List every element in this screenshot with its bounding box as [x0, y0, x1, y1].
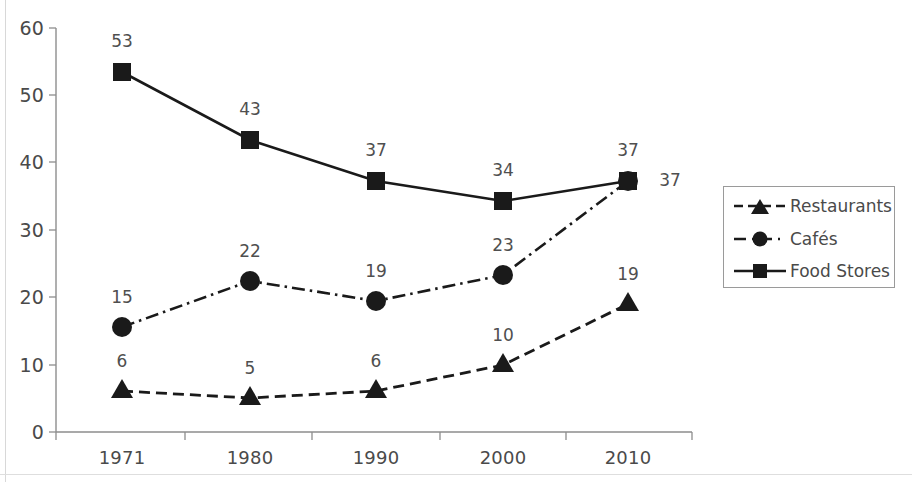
x-tick-label-1971: 1971 — [67, 447, 177, 468]
x-tick-label-2000: 2000 — [448, 447, 558, 468]
data-label-food-stores-1990: 37 — [351, 140, 401, 160]
data-label-restaurants-1971: 6 — [97, 351, 147, 371]
x-tick-label-1990: 1990 — [321, 447, 431, 468]
data-label-cafes-1990: 19 — [351, 261, 401, 281]
data-label-restaurants-1990: 6 — [351, 351, 401, 371]
y-tick-label-60: 60 — [0, 17, 44, 39]
legend-swatch-cafes — [732, 229, 788, 249]
data-label-food-stores-1971: 53 — [97, 31, 147, 51]
data-label-food-stores-2000: 34 — [478, 160, 528, 180]
x-tick-label-2010: 2010 — [573, 447, 683, 468]
y-tick-label-20: 20 — [0, 286, 44, 308]
data-label-food-stores-1980: 43 — [225, 99, 275, 119]
data-label-cafes-1980: 22 — [225, 241, 275, 261]
series-markers-food-stores — [113, 63, 637, 210]
y-tick-label-30: 30 — [0, 219, 44, 241]
y-tick-label-0: 0 — [0, 421, 44, 443]
x-tick-label-1980: 1980 — [195, 447, 305, 468]
data-label-restaurants-2000: 10 — [478, 325, 528, 345]
data-label-cafes-2010: 37 — [645, 170, 695, 190]
legend-label-food-stores: Food Stores — [788, 261, 890, 281]
line-chart-figure: 60 50 40 30 20 10 0 1971 1980 1990 2000 … — [0, 0, 912, 482]
data-label-cafes-2000: 23 — [478, 235, 528, 255]
x-axis-ticks — [56, 432, 692, 440]
legend-swatch-restaurants — [732, 196, 788, 216]
data-label-cafes-1971: 15 — [97, 287, 147, 307]
y-tick-label-10: 10 — [0, 354, 44, 376]
y-axis-ticks — [49, 28, 56, 432]
series-markers-cafes — [112, 171, 638, 337]
data-label-restaurants-1980: 5 — [225, 358, 275, 378]
data-label-restaurants-2010: 19 — [603, 264, 653, 284]
legend-item-restaurants[interactable]: Restaurants — [732, 193, 892, 219]
legend-label-restaurants: Restaurants — [788, 196, 892, 216]
y-tick-label-50: 50 — [0, 84, 44, 106]
legend-label-cafes: Cafés — [788, 229, 838, 249]
legend-item-cafes[interactable]: Cafés — [732, 226, 838, 252]
legend-item-food-stores[interactable]: Food Stores — [732, 258, 890, 284]
data-label-food-stores-2010: 37 — [603, 140, 653, 160]
legend-swatch-food-stores — [732, 261, 788, 281]
y-tick-label-40: 40 — [0, 151, 44, 173]
chart-legend: Restaurants Cafés Food Stores — [723, 186, 895, 288]
